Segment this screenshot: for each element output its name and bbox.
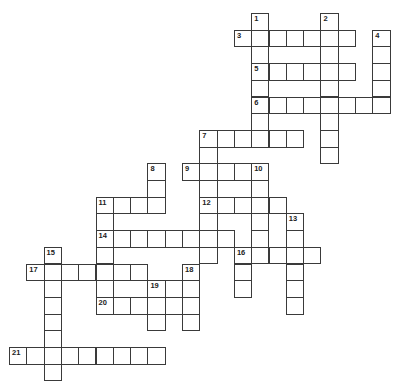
crossword-cell[interactable]: 19 (147, 280, 165, 298)
crossword-cell[interactable] (113, 197, 131, 215)
crossword-cell[interactable] (130, 297, 148, 315)
crossword-cell[interactable] (44, 364, 62, 382)
crossword-cell[interactable]: 18 (182, 264, 200, 282)
crossword-cell[interactable] (147, 180, 165, 198)
crossword-cell[interactable] (96, 280, 114, 298)
crossword-cell[interactable] (217, 230, 235, 248)
crossword-cell[interactable] (26, 347, 44, 365)
crossword-cell[interactable] (251, 80, 269, 98)
crossword-cell[interactable] (113, 347, 131, 365)
crossword-cell[interactable] (199, 147, 217, 165)
crossword-cell[interactable] (234, 163, 252, 181)
crossword-cell[interactable]: 17 (26, 264, 44, 282)
crossword-cell[interactable] (372, 46, 390, 64)
crossword-cell[interactable] (320, 130, 338, 148)
crossword-cell[interactable]: 7 (199, 130, 217, 148)
crossword-cell[interactable] (165, 230, 183, 248)
crossword-cell[interactable] (338, 63, 356, 81)
crossword-cell[interactable] (372, 80, 390, 98)
crossword-cell[interactable] (96, 264, 114, 282)
crossword-cell[interactable] (269, 30, 287, 48)
crossword-cell[interactable] (44, 330, 62, 348)
crossword-cell[interactable]: 6 (251, 97, 269, 115)
crossword-cell[interactable] (234, 130, 252, 148)
crossword-cell[interactable] (303, 30, 321, 48)
crossword-cell[interactable] (269, 197, 287, 215)
crossword-cell[interactable] (355, 97, 373, 115)
crossword-cell[interactable] (320, 113, 338, 131)
crossword-cell[interactable]: 3 (234, 30, 252, 48)
crossword-cell[interactable] (44, 347, 62, 365)
crossword-cell[interactable] (269, 247, 287, 265)
crossword-cell[interactable] (234, 197, 252, 215)
crossword-cell[interactable] (251, 130, 269, 148)
crossword-cell[interactable] (251, 30, 269, 48)
crossword-cell[interactable] (130, 197, 148, 215)
crossword-cell[interactable] (251, 46, 269, 64)
crossword-cell[interactable] (44, 297, 62, 315)
crossword-cell[interactable] (199, 230, 217, 248)
crossword-cell[interactable] (251, 213, 269, 231)
crossword-cell[interactable] (234, 264, 252, 282)
crossword-cell[interactable] (338, 97, 356, 115)
crossword-cell[interactable] (96, 347, 114, 365)
crossword-cell[interactable] (44, 264, 62, 282)
crossword-cell[interactable] (320, 97, 338, 115)
crossword-cell[interactable] (320, 63, 338, 81)
crossword-cell[interactable] (286, 264, 304, 282)
crossword-cell[interactable] (61, 264, 79, 282)
crossword-cell[interactable]: 8 (147, 163, 165, 181)
crossword-cell[interactable] (130, 264, 148, 282)
crossword-cell[interactable] (286, 230, 304, 248)
crossword-cell[interactable] (320, 30, 338, 48)
crossword-cell[interactable] (165, 297, 183, 315)
crossword-cell[interactable] (44, 280, 62, 298)
crossword-cell[interactable] (217, 197, 235, 215)
crossword-cell[interactable] (147, 314, 165, 332)
crossword-cell[interactable] (113, 264, 131, 282)
crossword-cell[interactable] (217, 163, 235, 181)
crossword-cell[interactable]: 10 (251, 163, 269, 181)
crossword-cell[interactable] (113, 297, 131, 315)
crossword-cell[interactable] (251, 197, 269, 215)
crossword-cell[interactable]: 16 (234, 247, 252, 265)
crossword-cell[interactable] (320, 147, 338, 165)
crossword-cell[interactable] (96, 213, 114, 231)
crossword-cell[interactable] (269, 130, 287, 148)
crossword-cell[interactable] (182, 230, 200, 248)
crossword-cell[interactable] (199, 247, 217, 265)
crossword-cell[interactable]: 20 (96, 297, 114, 315)
crossword-cell[interactable] (251, 247, 269, 265)
crossword-cell[interactable] (251, 113, 269, 131)
crossword-cell[interactable] (372, 97, 390, 115)
crossword-cell[interactable] (269, 63, 287, 81)
crossword-cell[interactable] (199, 163, 217, 181)
crossword-cell[interactable] (44, 314, 62, 332)
crossword-cell[interactable] (286, 130, 304, 148)
crossword-cell[interactable] (182, 297, 200, 315)
crossword-cell[interactable] (303, 247, 321, 265)
crossword-cell[interactable] (286, 63, 304, 81)
crossword-cell[interactable] (130, 230, 148, 248)
crossword-cell[interactable] (182, 280, 200, 298)
crossword-cell[interactable]: 15 (44, 247, 62, 265)
crossword-cell[interactable] (286, 30, 304, 48)
crossword-cell[interactable] (96, 247, 114, 265)
crossword-cell[interactable] (147, 297, 165, 315)
crossword-cell[interactable]: 5 (251, 63, 269, 81)
crossword-cell[interactable] (320, 46, 338, 64)
crossword-cell[interactable] (286, 97, 304, 115)
crossword-cell[interactable] (286, 297, 304, 315)
crossword-cell[interactable] (286, 247, 304, 265)
crossword-cell[interactable] (182, 314, 200, 332)
crossword-cell[interactable] (199, 180, 217, 198)
crossword-cell[interactable]: 14 (96, 230, 114, 248)
crossword-cell[interactable] (199, 213, 217, 231)
crossword-cell[interactable]: 21 (9, 347, 27, 365)
crossword-cell[interactable] (61, 347, 79, 365)
crossword-cell[interactable] (113, 230, 131, 248)
crossword-cell[interactable]: 9 (182, 163, 200, 181)
crossword-cell[interactable] (165, 280, 183, 298)
crossword-cell[interactable]: 4 (372, 30, 390, 48)
crossword-cell[interactable] (303, 97, 321, 115)
